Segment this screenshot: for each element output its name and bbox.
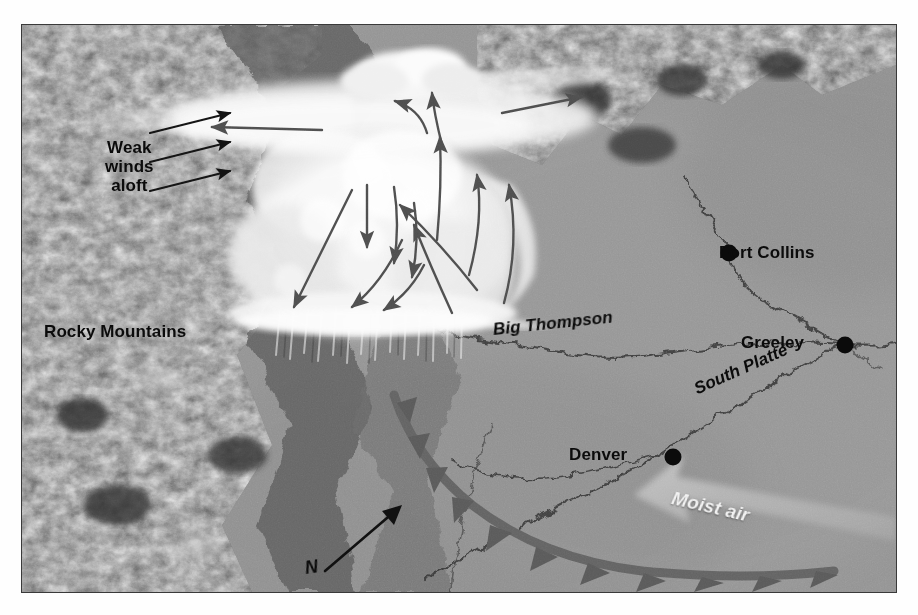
diagram-canvas bbox=[22, 25, 896, 592]
label-weak-winds-aloft: Weak winds aloft bbox=[105, 138, 154, 195]
city-dot-denver bbox=[665, 449, 682, 466]
label-north: N bbox=[304, 556, 320, 578]
label-rocky-mountains: Rocky Mountains bbox=[44, 322, 186, 341]
label-weak-winds-aloft-line1: Weak bbox=[105, 138, 154, 157]
storm-diagram-photo: Weak winds aloft Rocky Mountains Fort Co… bbox=[22, 25, 896, 592]
city-dot-greeley bbox=[837, 337, 854, 354]
label-denver: Denver bbox=[569, 445, 627, 464]
label-fort-collins: Fort Collins bbox=[719, 243, 815, 262]
figure-page: Weak winds aloft Rocky Mountains Fort Co… bbox=[0, 0, 918, 615]
label-weak-winds-aloft-line2: winds bbox=[105, 157, 154, 176]
label-weak-winds-aloft-line3: aloft bbox=[105, 176, 154, 195]
